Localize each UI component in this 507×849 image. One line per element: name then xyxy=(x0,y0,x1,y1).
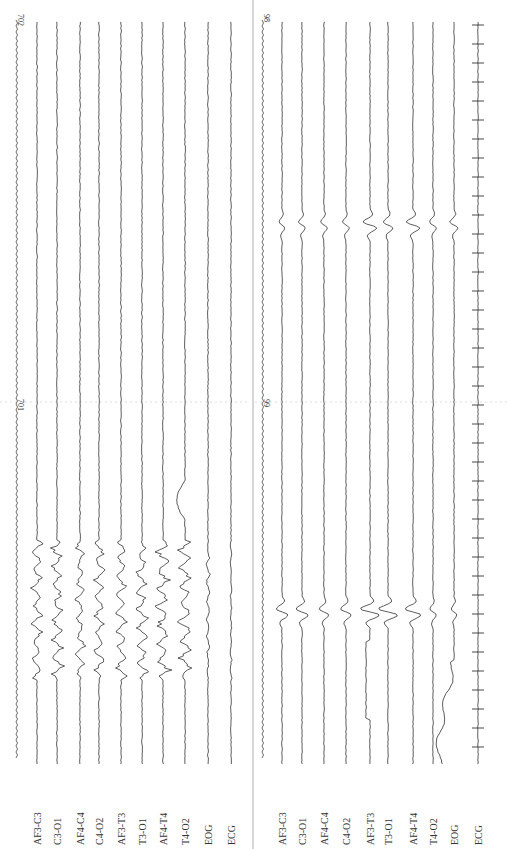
channel-label: C3-O1 xyxy=(52,818,63,845)
channel-label: T4-O2 xyxy=(428,818,439,845)
channel-trace-bottom-AF3-C3 xyxy=(277,22,288,764)
channel-trace-top-ECG xyxy=(230,22,232,764)
channel-trace-bottom-EOG xyxy=(436,22,458,764)
channel-trace-bottom-AF4-T4 xyxy=(406,22,421,764)
time-marker-label: 702 xyxy=(16,14,25,26)
channel-label: AF3-T3 xyxy=(116,813,127,845)
eeg-figure: 702701AF3-C3C3-O1AF4-C4C4-O2AF3-T3T3-O1A… xyxy=(0,0,507,849)
channel-trace-top-C4-O2 xyxy=(93,22,105,764)
channel-label: ECG xyxy=(473,825,484,845)
time-marker-bar xyxy=(16,20,18,758)
channel-trace-bottom-T4-O2 xyxy=(430,22,437,764)
channel-label: C3-O1 xyxy=(297,818,308,845)
channel-label: ECG xyxy=(226,825,237,845)
channel-label: EOG xyxy=(449,824,460,845)
channel-label: AF3-T3 xyxy=(365,813,376,845)
channel-label: T3-O1 xyxy=(137,818,148,845)
channel-label: AF3-C3 xyxy=(32,812,43,845)
channel-trace-top-AF3-C3 xyxy=(30,22,43,764)
channel-label: AF4-C4 xyxy=(75,812,86,845)
time-marker-label: 701 xyxy=(16,399,25,411)
channel-label: AF4-C4 xyxy=(319,812,330,845)
channel-label: C4-O2 xyxy=(94,818,105,845)
channel-label: EOG xyxy=(203,824,214,845)
channel-trace-top-EOG xyxy=(206,22,210,764)
channel-trace-top-T4-O2 xyxy=(177,22,192,764)
channel-trace-top-C3-O1 xyxy=(50,22,64,764)
channel-trace-bottom-ECG xyxy=(478,22,479,764)
channel-trace-top-T3-O1 xyxy=(136,22,149,764)
time-marker-label: 98 xyxy=(262,14,271,22)
channel-label: AF4-T4 xyxy=(408,813,419,845)
channel-trace-top-AF3-T3 xyxy=(116,22,128,764)
channel-label: AF3-C3 xyxy=(277,812,288,845)
channel-trace-bottom-C4-O2 xyxy=(341,22,351,764)
channel-trace-bottom-C3-O1 xyxy=(296,22,308,764)
channel-trace-bottom-AF3-T3 xyxy=(361,22,379,764)
channel-label: C4-O2 xyxy=(341,818,352,845)
eeg-traces: 702701AF3-C3C3-O1AF4-C4C4-O2AF3-T3T3-O1A… xyxy=(0,0,507,849)
channel-trace-bottom-AF4-C4 xyxy=(320,22,329,764)
time-marker-bar xyxy=(262,20,264,758)
channel-trace-bottom-T3-O1 xyxy=(379,22,398,764)
channel-label: T3-O1 xyxy=(383,818,394,845)
channel-trace-top-AF4-T4 xyxy=(155,22,172,764)
time-marker-label: 99 xyxy=(262,399,271,407)
channel-label: AF4-T4 xyxy=(158,813,169,845)
channel-label: T4-O2 xyxy=(180,818,191,845)
channel-trace-top-AF4-C4 xyxy=(75,22,86,764)
